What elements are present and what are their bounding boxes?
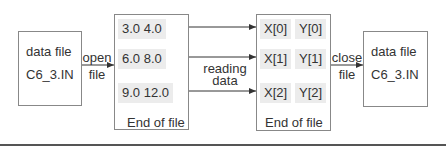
open-file-label-2: file <box>82 67 112 82</box>
bottom-rule <box>0 144 446 146</box>
source-file-name: C6_3.IN <box>26 67 74 82</box>
reading-data-label-2: data <box>190 73 260 88</box>
file-contents-box: 3.0 4.0 6.0 8.0 9.0 12.0 End of file <box>114 14 189 130</box>
file-row-1: 3.0 4.0 <box>118 19 166 39</box>
source-file-label: data file <box>26 44 72 59</box>
dest-file-label: data file <box>371 44 417 59</box>
array-y-0: Y[0] <box>295 19 326 39</box>
arrays-eof: End of file <box>265 115 323 130</box>
file-row-3: 9.0 12.0 <box>118 83 173 103</box>
dest-file-name: C6_3.IN <box>371 67 419 82</box>
file-row-2: 6.0 8.0 <box>118 49 166 69</box>
close-file-label-2: file <box>330 67 364 82</box>
array-x-0: X[0] <box>260 19 291 39</box>
dest-file-box: data file C6_3.IN <box>363 31 428 107</box>
array-y-2: Y[2] <box>295 83 326 103</box>
array-y-1: Y[1] <box>295 49 326 69</box>
file-eof: End of file <box>127 115 185 130</box>
arrays-box: X[0] Y[0] X[1] Y[1] X[2] Y[2] End of fil… <box>256 14 331 131</box>
open-file-label-1: open <box>82 50 112 65</box>
array-x-2: X[2] <box>260 83 291 103</box>
source-file-box: data file C6_3.IN <box>18 31 82 106</box>
array-x-1: X[1] <box>260 49 291 69</box>
close-file-label-1: close <box>330 50 364 65</box>
